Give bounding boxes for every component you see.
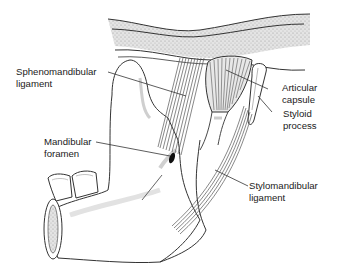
label-sphenomandibular-ligament: Sphenomandibular ligament [16, 66, 97, 90]
label-line-1: Mandibular [44, 136, 91, 148]
anatomy-diagram: Sphenomandibular ligament Articular caps… [0, 0, 338, 276]
label-line-2: capsule [282, 94, 317, 106]
label-line-1: Stylomandibular [249, 180, 318, 192]
label-styloid-process: Styloid process [283, 108, 317, 132]
label-articular-capsule: Articular capsule [282, 82, 317, 106]
label-line-1: Styloid [283, 108, 317, 120]
sphenomandibular-ligament [158, 58, 204, 155]
label-line-2: process [283, 120, 317, 132]
styloid-process [248, 63, 266, 124]
label-line-1: Sphenomandibular [16, 66, 97, 78]
stylomandibular-ligament [172, 106, 252, 234]
label-line-2: ligament [16, 78, 97, 90]
label-mandibular-foramen: Mandibular foramen [44, 136, 91, 160]
label-line-1: Articular [282, 82, 317, 94]
label-line-2: foramen [44, 148, 91, 160]
label-stylomandibular-ligament: Stylomandibular ligament [249, 180, 318, 204]
label-line-2: ligament [249, 192, 318, 204]
